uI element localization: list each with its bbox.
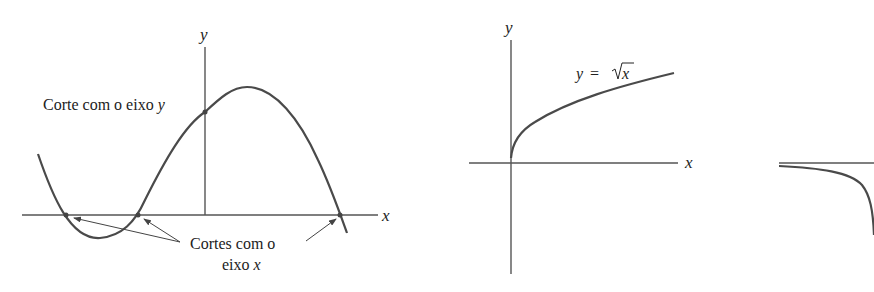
fig1-y-intercept	[203, 110, 208, 115]
fig1-x-axis-label: x	[381, 206, 390, 225]
fig1-arrow-1	[74, 218, 180, 242]
fig1-arrow-2	[144, 219, 180, 242]
fig1-x-intercept-1	[64, 213, 69, 218]
fig1-x-intercept-3	[338, 213, 343, 218]
fig2-sqrt-curve	[511, 73, 674, 158]
svg-text:=: =	[590, 65, 599, 82]
fig1-y-axis-label: y	[198, 25, 208, 44]
fig3-curve	[779, 166, 874, 235]
fig2-y-axis-label: y	[503, 18, 513, 37]
figure-canvas: y x Corte com o eixo y Cortes com o eixo…	[0, 0, 874, 292]
figure-3-partial	[779, 163, 874, 235]
fig1-x-intercepts-label-line2: eixo x	[222, 256, 261, 273]
figure-1-intercepts: y x Corte com o eixo y Cortes com o eixo…	[22, 25, 390, 273]
svg-text:x: x	[621, 65, 629, 82]
svg-text:y: y	[574, 65, 584, 83]
fig1-y-intercept-label: Corte com o eixo y	[43, 96, 166, 114]
fig1-arrow-3	[306, 219, 336, 241]
figure-2-sqrt: y x y = x	[469, 18, 693, 274]
fig1-x-intercepts-label-line1: Cortes com o	[190, 235, 275, 252]
fig2-curve-label: y = x	[574, 63, 634, 83]
fig2-x-axis-label: x	[684, 153, 693, 172]
fig1-x-intercept-2	[136, 213, 141, 218]
